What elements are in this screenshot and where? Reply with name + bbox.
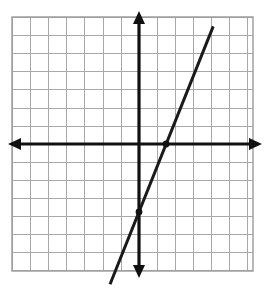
coordinate-plane-svg	[0, 0, 270, 297]
plot-point-x-intercept	[163, 141, 170, 148]
plot-point-y-intercept	[136, 208, 143, 215]
x-axis-right-arrow-icon	[249, 138, 262, 150]
coordinate-plane-figure	[0, 0, 270, 297]
